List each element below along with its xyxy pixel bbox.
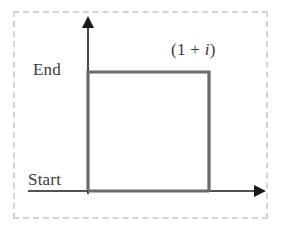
- rate-label: (1 + i): [171, 40, 216, 60]
- diagram-canvas: [0, 0, 282, 234]
- rate-label-close: ): [210, 40, 216, 59]
- arrow-right-icon: [254, 185, 266, 197]
- compounding-path: [88, 72, 209, 191]
- end-label: End: [33, 60, 61, 80]
- start-label: Start: [28, 170, 61, 190]
- figure-container: End Start (1 + i): [0, 0, 282, 234]
- rate-label-open: (1 +: [171, 40, 205, 59]
- arrow-up-icon: [82, 16, 94, 28]
